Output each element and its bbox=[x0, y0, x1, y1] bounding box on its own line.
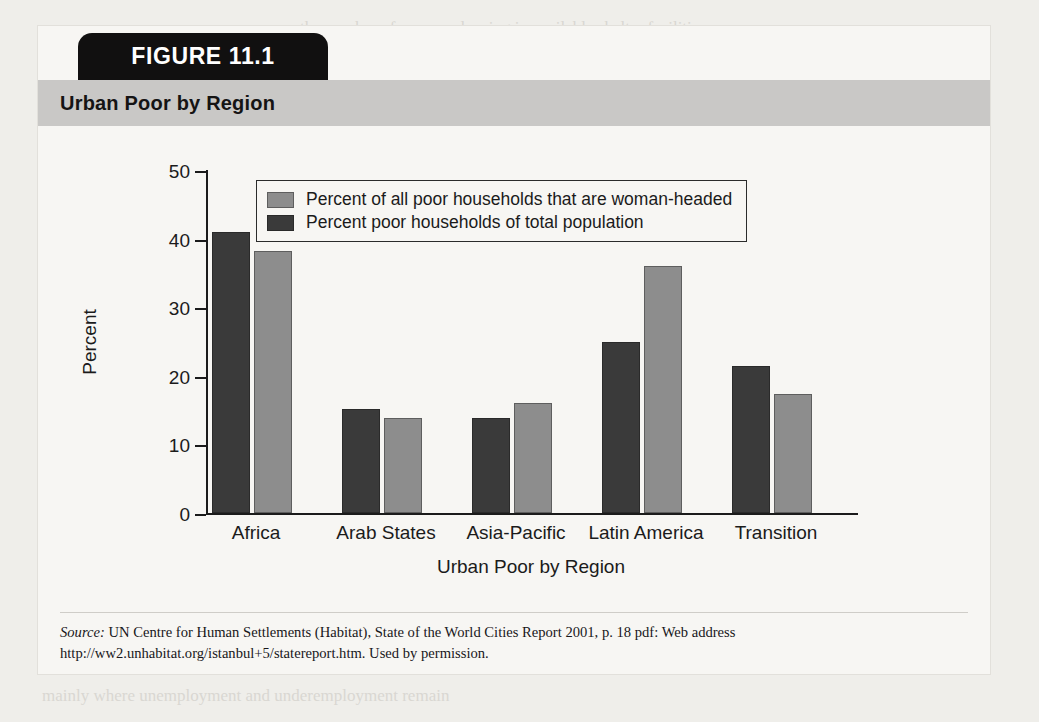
figure-title-band: Urban Poor by Region bbox=[38, 80, 990, 126]
bar bbox=[602, 342, 640, 514]
chart: Percent 01020304050 AfricaArab StatesAsi… bbox=[38, 126, 990, 604]
y-tick-label: 0 bbox=[179, 504, 190, 526]
x-axis-title: Urban Poor by Region bbox=[437, 556, 625, 578]
bar bbox=[514, 403, 552, 513]
y-tick-label: 40 bbox=[169, 230, 190, 252]
x-tick-label: Africa bbox=[232, 522, 281, 544]
y-tick-label: 20 bbox=[169, 367, 190, 389]
legend-item-woman-headed: Percent of all poor households that are … bbox=[267, 188, 732, 211]
x-tick-label: Arab States bbox=[336, 522, 435, 544]
figure-number-tab: FIGURE 11.1 bbox=[78, 33, 328, 80]
page-bleed-text-11: mainly where unemployment and underemplo… bbox=[42, 686, 449, 706]
x-tick-label: Latin America bbox=[588, 522, 703, 544]
y-tick-label: 30 bbox=[169, 298, 190, 320]
y-tick-mark bbox=[195, 308, 206, 310]
y-tick-mark bbox=[195, 445, 206, 447]
chart-legend: Percent of all poor households that are … bbox=[256, 180, 747, 242]
x-tick-label: Asia-Pacific bbox=[466, 522, 565, 544]
figure-title: Urban Poor by Region bbox=[60, 92, 275, 115]
source-divider bbox=[60, 612, 968, 613]
bar bbox=[774, 394, 812, 513]
figure-card: FIGURE 11.1 Urban Poor by Region Percent… bbox=[38, 26, 990, 674]
bar bbox=[384, 418, 422, 513]
y-tick-mark bbox=[195, 240, 206, 242]
x-tick-label: Transition bbox=[735, 522, 818, 544]
source-text: UN Centre for Human Settlements (Habitat… bbox=[60, 624, 735, 661]
legend-label-dark: Percent poor households of total populat… bbox=[306, 212, 644, 233]
bar bbox=[732, 366, 770, 513]
source-prefix: Source: bbox=[60, 624, 105, 640]
bar bbox=[644, 266, 682, 513]
legend-item-total-population: Percent poor households of total populat… bbox=[267, 211, 732, 234]
legend-swatch-dark bbox=[267, 215, 294, 231]
y-axis-title: Percent bbox=[79, 309, 101, 374]
figure-number-label: FIGURE 11.1 bbox=[131, 43, 274, 70]
legend-swatch-light bbox=[267, 192, 294, 208]
y-tick-mark bbox=[195, 514, 206, 516]
bar bbox=[254, 251, 292, 513]
x-axis-line bbox=[206, 513, 858, 515]
source-note: Source: UN Centre for Human Settlements … bbox=[60, 622, 970, 663]
bar bbox=[472, 418, 510, 513]
legend-label-light: Percent of all poor households that are … bbox=[306, 189, 732, 210]
y-tick-label: 10 bbox=[169, 435, 190, 457]
y-tick-mark bbox=[195, 171, 206, 173]
y-tick-mark bbox=[195, 377, 206, 379]
y-tick-label: 50 bbox=[169, 161, 190, 183]
bar bbox=[342, 409, 380, 513]
bar bbox=[212, 232, 250, 513]
